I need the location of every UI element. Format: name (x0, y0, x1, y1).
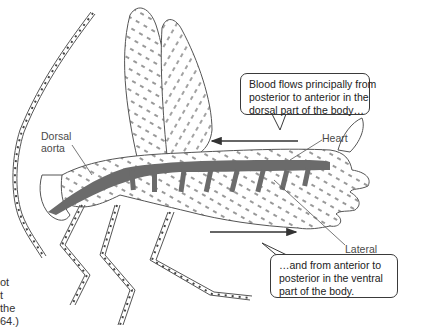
legs (60, 205, 252, 325)
heart-label: Heart (322, 132, 348, 144)
ventral-callout-line2: posterior in the ventral (279, 272, 389, 285)
dorsal-aorta-label: Dorsal aorta (41, 130, 71, 154)
dorsal-callout-line2: posterior to anterior in the (249, 91, 361, 104)
caption-line3: the (0, 302, 15, 315)
caption-line1: ot (0, 276, 9, 289)
wings (125, 8, 212, 170)
caption-line4: 64.) (0, 315, 19, 328)
ventral-callout-line1: …and from anterior to (279, 259, 389, 272)
caption-line2: t (0, 289, 3, 302)
dorsal-callout-line1: Blood flows principally from (249, 78, 361, 91)
dorsal-aorta-label-line1: Dorsal (41, 130, 71, 142)
insect-circulation-diagram: Dorsal aorta Heart Lateral artery Blood … (0, 0, 425, 335)
dorsal-flow-callout: Blood flows principally from posterior t… (240, 73, 370, 115)
dorsal-callout-line3: dorsal part of the body… (249, 104, 361, 117)
dorsal-aorta-label-line2: aorta (41, 142, 71, 154)
ventral-callout-line3: part of the body. (279, 285, 389, 298)
ventral-flow-callout: …and from anterior to posterior in the v… (270, 254, 398, 298)
